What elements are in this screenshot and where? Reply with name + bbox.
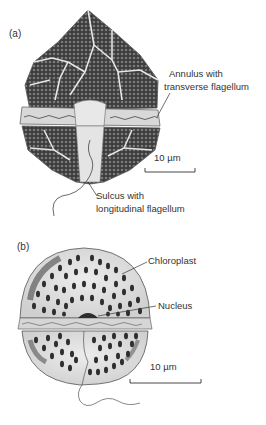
- sulcus-label-line1: Sulcus with: [96, 190, 144, 201]
- annulus-leader-line: [157, 93, 170, 117]
- figure-caption-clipped: [0, 418, 266, 425]
- sulcus-label-line2: longitudinal flagellum: [96, 203, 185, 214]
- panel-label-a: (a): [9, 28, 21, 39]
- scale-bar-a: [145, 168, 195, 172]
- scale-bar-b: [130, 379, 201, 383]
- annulus-label-line2: transverse flagellum: [164, 81, 249, 92]
- chloroplast-label: Chloroplast: [148, 255, 196, 266]
- annulus-label-line1: Annulus with: [169, 68, 223, 79]
- unarmored-dinoflagellate-illustration: [18, 248, 152, 406]
- panel-label-b: (b): [17, 241, 29, 252]
- scale-bar-a-label: 10 µm: [154, 152, 181, 163]
- scale-bar-b-label: 10 µm: [150, 361, 177, 372]
- nucleus-label: Nucleus: [158, 300, 192, 311]
